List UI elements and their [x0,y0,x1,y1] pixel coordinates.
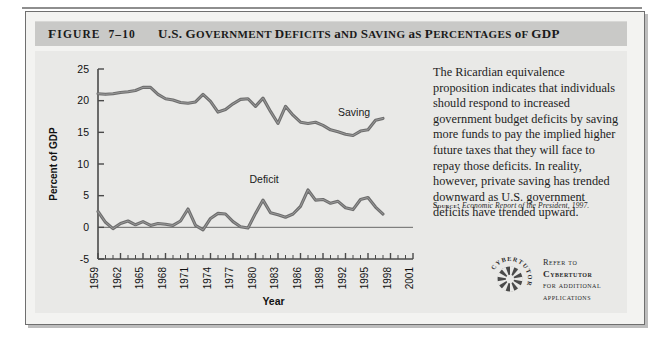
cybertutor-line-4: applications [543,292,601,304]
x-tick-label-1977: 1977 [224,267,235,290]
x-tick-label-1983: 1983 [269,267,280,290]
x-tick-label-1980: 1980 [247,267,258,290]
x-tick-label-1968: 1968 [157,267,168,290]
y-axis-title: Percent of GDP [48,127,59,201]
cybertutor-caption: Refer to Cybertutor for additional appli… [543,257,601,303]
line-chart: 2520151050-51959196219651968197119741977… [35,51,427,313]
x-tick-label-2001: 2001 [404,267,415,290]
y-tick-label-20: 20 [77,94,89,106]
x-tick-label-1965: 1965 [134,267,145,290]
top-rule [22,7,642,9]
x-tick-label-1974: 1974 [202,267,213,290]
series-label-saving: Saving [338,106,370,118]
figure-title-band: FIGURE 7–10 U.S. GOVERNMENT DEFICITS aND… [35,21,627,46]
y-tick-label-25: 25 [77,63,89,75]
x-tick-label-1986: 1986 [292,267,303,290]
source-title: Economic Report of the President, [462,201,570,210]
cybertutor-line-3: for additional [543,280,601,292]
x-tick-label-1959: 1959 [89,267,100,290]
cybertutor-line-2: Cybertutor [543,269,601,281]
x-tick-label-1992: 1992 [337,267,348,290]
y-tick-label-15: 15 [77,126,89,138]
y-tick-label-5: 5 [83,189,89,201]
series-line-deficit [98,190,383,230]
figure-panel: 2520151050-51959196219651968197119741977… [35,51,627,313]
x-axis-title: Year [262,295,284,307]
x-tick-label-1995: 1995 [359,267,370,290]
figure-title: U.S. GOVERNMENT DEFICITS aND SAVING aS P… [158,26,560,42]
x-tick-label-1962: 1962 [112,267,123,290]
cybertutor-block: CYBERTUTOR Refer to Cybertutor for addit… [487,256,637,308]
description-paragraph: The Ricardian equivalence proposition in… [433,65,619,221]
figure-page: FIGURE 7–10 U.S. GOVERNMENT DEFICITS aND… [0,0,671,347]
x-tick-label-1989: 1989 [314,267,325,290]
source-line: Source: Economic Report of the President… [433,201,619,210]
y-tick-label-10: 10 [77,158,89,170]
figure-label: FIGURE 7–10 [48,26,136,42]
series-label-deficit: Deficit [250,173,279,185]
cybertutor-logo-icon: CYBERTUTOR [487,256,533,302]
figure-frame: FIGURE 7–10 U.S. GOVERNMENT DEFICITS aND… [25,11,645,325]
x-tick-label-1998: 1998 [382,267,393,290]
source-label: Source: [433,201,460,210]
source-year: 1997. [572,201,590,210]
cybertutor-line-1: Refer to [543,257,601,269]
y-tick-label-0: 0 [83,221,89,233]
chart-container: 2520151050-51959196219651968197119741977… [35,51,427,313]
y-tick-label--5: -5 [80,253,89,265]
x-tick-label-1971: 1971 [179,267,190,290]
